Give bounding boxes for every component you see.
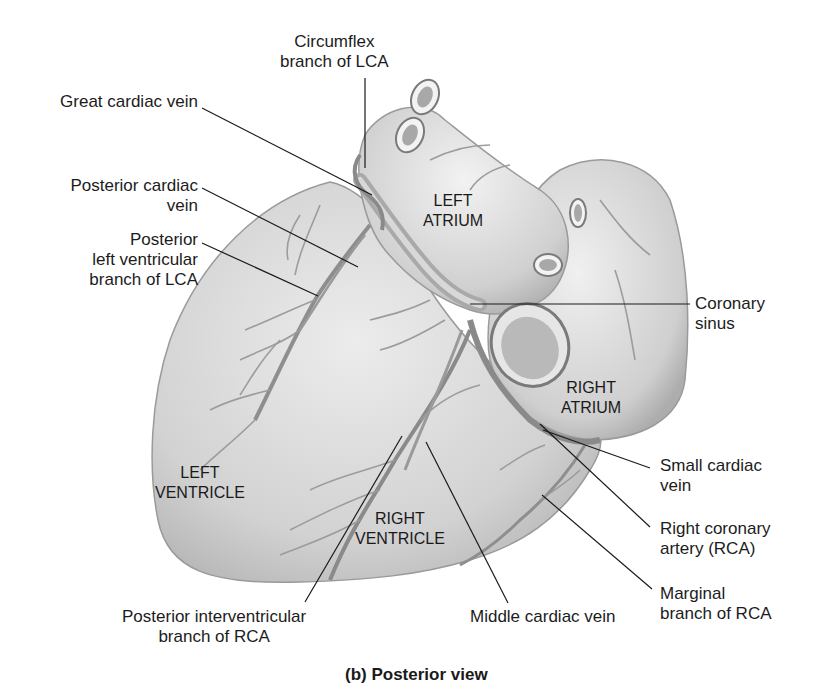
label-marginal-branch-line1: Marginal	[660, 584, 772, 604]
label-posterior-lv-branch-line3: branch of LCA	[30, 270, 198, 290]
label-great-cardiac-vein-line1: Great cardiac vein	[30, 92, 198, 112]
heart-posterior-diagram: LEFT ATRIUM RIGHT ATRIUM LEFT VENTRICLE …	[0, 0, 826, 698]
label-small-cardiac-vein: Small cardiac vein	[660, 456, 762, 496]
label-marginal-branch: Marginal branch of RCA	[660, 584, 772, 624]
label-posterior-interventricular-branch: Posterior interventricular branch of RCA	[122, 607, 306, 647]
region-left-ventricle: LEFT VENTRICLE	[155, 463, 245, 503]
label-great-cardiac-vein: Great cardiac vein	[30, 92, 198, 112]
region-left-atrium-line2: ATRIUM	[423, 211, 483, 231]
region-left-atrium: LEFT ATRIUM	[423, 191, 483, 231]
label-circumflex-line1: Circumflex	[280, 32, 389, 52]
label-posterior-interventricular-line1: Posterior interventricular	[122, 607, 306, 627]
label-coronary-sinus-line2: sinus	[695, 314, 765, 334]
label-small-cardiac-vein-line1: Small cardiac	[660, 456, 762, 476]
label-posterior-cardiac-vein-line1: Posterior cardiac	[30, 176, 198, 196]
label-middle-cardiac-vein: Middle cardiac vein	[470, 607, 616, 627]
region-right-atrium-line2: ATRIUM	[561, 398, 621, 418]
label-posterior-cardiac-vein-line2: vein	[30, 196, 198, 216]
region-left-atrium-line1: LEFT	[423, 191, 483, 211]
figure-caption: (b) Posterior view	[345, 665, 488, 685]
region-left-ventricle-line2: VENTRICLE	[155, 483, 245, 503]
region-left-ventricle-line1: LEFT	[155, 463, 245, 483]
region-right-ventricle: RIGHT VENTRICLE	[355, 509, 445, 549]
region-right-ventricle-line2: VENTRICLE	[355, 529, 445, 549]
region-right-ventricle-line1: RIGHT	[355, 509, 445, 529]
label-posterior-lv-branch-line1: Posterior	[30, 230, 198, 250]
label-circumflex-branch: Circumflex branch of LCA	[280, 32, 389, 72]
label-rca-line2: artery (RCA)	[660, 539, 771, 559]
label-coronary-sinus-line1: Coronary	[695, 294, 765, 314]
label-coronary-sinus: Coronary sinus	[695, 294, 765, 334]
label-circumflex-line2: branch of LCA	[280, 52, 389, 72]
region-right-atrium: RIGHT ATRIUM	[561, 378, 621, 418]
label-marginal-branch-line2: branch of RCA	[660, 604, 772, 624]
label-small-cardiac-vein-line2: vein	[660, 476, 762, 496]
region-right-atrium-line1: RIGHT	[561, 378, 621, 398]
label-middle-cardiac-vein-line1: Middle cardiac vein	[470, 607, 616, 627]
label-posterior-lv-branch: Posterior left ventricular branch of LCA	[30, 230, 198, 290]
label-rca-line1: Right coronary	[660, 519, 771, 539]
label-posterior-cardiac-vein: Posterior cardiac vein	[30, 176, 198, 216]
label-posterior-interventricular-line2: branch of RCA	[122, 627, 306, 647]
label-right-coronary-artery: Right coronary artery (RCA)	[660, 519, 771, 559]
label-posterior-lv-branch-line2: left ventricular	[30, 250, 198, 270]
